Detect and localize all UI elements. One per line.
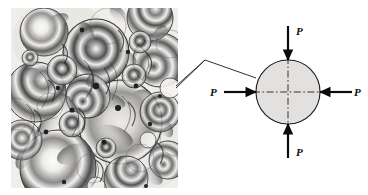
loaded-disk-free-body-diagram: P P P P	[210, 25, 361, 158]
load-label-left: P	[210, 86, 217, 98]
micrograph-panel	[0, 0, 192, 195]
micrograph-content	[0, 0, 192, 195]
load-label-right: P	[354, 86, 361, 98]
figure-root: P P P P	[0, 0, 368, 195]
figure-canvas: P P P P	[0, 0, 368, 195]
load-label-bottom: P	[296, 146, 303, 158]
callout-leader	[176, 60, 256, 88]
load-label-top: P	[296, 25, 303, 37]
